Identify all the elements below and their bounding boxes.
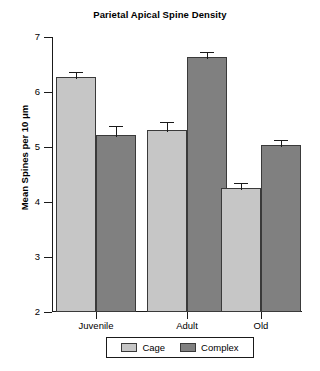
errorbar-juvenile-complex <box>116 126 117 137</box>
chart-legend: Cage Complex <box>106 337 254 358</box>
y-tick-mark-3 <box>44 257 52 258</box>
bar-juvenile-complex[interactable] <box>96 135 136 312</box>
errorbar-old-complex <box>281 140 282 147</box>
chart-figure: Parietal Apical Spine Density Mean Spine… <box>0 0 320 371</box>
chart-title: Parietal Apical Spine Density <box>0 9 320 20</box>
x-tick-mark-old <box>261 312 262 319</box>
y-tick-label-2: 2 <box>18 306 40 317</box>
legend-label-cage: Cage <box>142 343 165 353</box>
legend-item-complex[interactable]: Complex <box>180 343 239 353</box>
y-tick-label-3: 3 <box>18 251 40 262</box>
legend-label-complex: Complex <box>201 343 239 353</box>
x-axis-label-juvenile: Juvenile <box>56 320 136 331</box>
legend-swatch-cage <box>121 343 137 352</box>
legend-item-cage[interactable]: Cage <box>121 343 165 353</box>
legend-swatch-complex <box>180 343 196 352</box>
errorcap-old-complex <box>274 140 288 141</box>
y-tick-label-4: 4 <box>18 196 40 207</box>
x-axis-label-adult: Adult <box>147 320 227 331</box>
y-tick-label-6: 6 <box>18 86 40 97</box>
errorbar-adult-cage <box>167 122 168 132</box>
bar-juvenile-cage[interactable] <box>56 77 96 312</box>
bar-adult-cage[interactable] <box>147 130 187 312</box>
errorcap-adult-complex <box>200 52 214 53</box>
errorcap-juvenile-cage <box>69 72 83 73</box>
x-tick-mark-juvenile <box>96 312 97 319</box>
errorcap-old-cage <box>234 183 248 184</box>
y-tick-mark-2 <box>44 312 52 313</box>
errorbar-juvenile-cage <box>76 72 77 79</box>
y-tick-mark-5 <box>44 147 52 148</box>
y-tick-mark-4 <box>44 202 52 203</box>
y-tick-label-7: 7 <box>18 31 40 42</box>
y-tick-mark-6 <box>44 92 52 93</box>
y-tick-mark-7 <box>44 37 52 38</box>
errorcap-adult-cage <box>160 122 174 123</box>
x-tick-mark-adult <box>187 312 188 319</box>
bar-old-cage[interactable] <box>221 188 261 312</box>
errorcap-juvenile-complex <box>109 126 123 127</box>
x-axis-label-old: Old <box>221 320 301 331</box>
y-tick-label-5: 5 <box>18 141 40 152</box>
errorbar-old-cage <box>241 183 242 190</box>
bar-old-complex[interactable] <box>261 145 301 312</box>
errorbar-adult-complex <box>207 52 208 59</box>
